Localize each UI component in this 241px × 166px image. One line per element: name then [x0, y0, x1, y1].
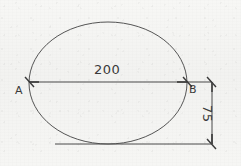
arrow-down-tick-icon [207, 134, 216, 149]
arrow-left-tick-icon [25, 77, 39, 87]
major-dimension-label: 200 [94, 63, 120, 76]
point-a-label: A [15, 85, 23, 96]
minor-dimension-label: 75 [201, 105, 214, 123]
ellipse-dimension-drawing [0, 0, 241, 166]
drawing-canvas: 200 75 A B [0, 0, 241, 166]
point-b-label: B [189, 84, 197, 95]
ellipse-outline [29, 22, 187, 144]
